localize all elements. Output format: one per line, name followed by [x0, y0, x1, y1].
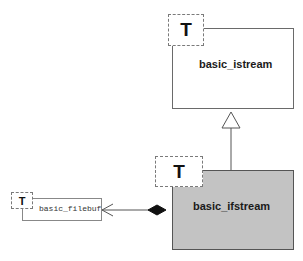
- template-param-basic-ifstream: T: [155, 156, 203, 187]
- class-name-basic-filebuf: basic_filebuf: [39, 204, 101, 213]
- template-param-basic-filebuf: T: [11, 192, 33, 209]
- template-param-label: T: [19, 195, 26, 207]
- template-param-basic-istream: T: [168, 14, 204, 46]
- class-name-basic-istream: basic_istream: [199, 58, 272, 70]
- template-param-label: T: [180, 19, 192, 41]
- class-name-basic-ifstream: basic_ifstream: [193, 200, 270, 212]
- class-basic-filebuf: basic_filebuf: [22, 198, 102, 221]
- inheritance-triangle-icon: [222, 112, 240, 128]
- template-param-label: T: [173, 161, 185, 183]
- composition-diamond-icon: [148, 205, 166, 215]
- uml-class-diagram: basic_istream T basic_ifstream T basic_f…: [0, 0, 303, 261]
